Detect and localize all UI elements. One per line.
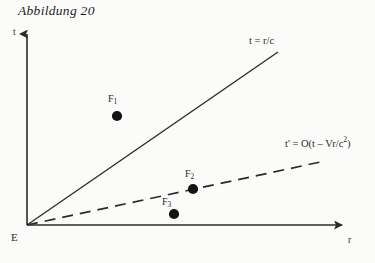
data-point-f2	[188, 184, 198, 194]
data-point-f3	[169, 209, 179, 219]
data-point-f1	[112, 111, 122, 121]
data-point-label-f1: F1	[108, 94, 117, 104]
formula-prefix: t' = O(t	[285, 138, 318, 149]
spacetime-diagram-canvas	[0, 0, 375, 263]
point-label-text: F	[185, 168, 191, 179]
origin-label: E	[11, 232, 18, 243]
data-point-label-f2: F2	[185, 169, 194, 179]
y-axis-label: t	[13, 28, 16, 38]
formula-suffix: )	[347, 138, 351, 149]
formula-middle: Vr/c	[323, 138, 343, 149]
light-line-solid	[27, 52, 278, 225]
point-label-subscript: 2	[191, 172, 195, 181]
point-label-subscript: 1	[114, 97, 118, 106]
figure-container: Abbildung 20 t r E t = r/c t' = O(t – Vr…	[0, 0, 375, 263]
data-point-label-f3: F3	[162, 197, 171, 207]
light-line-label: t = r/c	[249, 36, 274, 47]
point-label-text: F	[108, 93, 114, 104]
point-label-subscript: 3	[168, 200, 172, 209]
x-axis-label: r	[348, 236, 351, 246]
point-label-text: F	[162, 196, 168, 207]
transformed-time-line-label: t' = O(t – Vr/c2)	[285, 136, 351, 149]
figure-caption: Abbildung 20	[18, 4, 95, 18]
